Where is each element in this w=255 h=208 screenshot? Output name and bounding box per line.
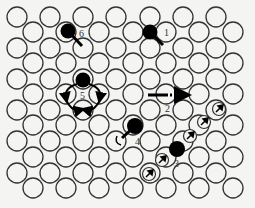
lattice-atom	[223, 84, 243, 104]
lattice-atom	[223, 178, 243, 198]
lattice-atom	[7, 69, 27, 89]
lattice-atom	[89, 22, 109, 42]
lattice-atom	[7, 38, 27, 58]
lattice-atom	[40, 7, 60, 27]
lattice-atom	[189, 178, 209, 198]
lattice-atom	[156, 53, 176, 73]
lattice-atom	[23, 115, 43, 135]
lattice-diagram: 6 1 5 2 4	[0, 0, 255, 208]
label-2: 2	[165, 103, 170, 114]
lattice-atom	[189, 84, 209, 104]
lattice-atom	[40, 38, 60, 58]
lattice-atom	[156, 115, 176, 135]
host-lattice	[7, 7, 243, 198]
lattice-atom	[140, 131, 160, 151]
interstitial-atom	[61, 24, 76, 39]
lattice-atom	[23, 84, 43, 104]
lattice-atom	[140, 100, 160, 120]
lattice-atom	[106, 100, 126, 120]
lattice-atom	[23, 147, 43, 167]
lattice-atom	[189, 22, 209, 42]
interstitial-atom	[127, 118, 143, 134]
lattice-atom	[206, 69, 226, 89]
lattice-atom	[89, 178, 109, 198]
lattice-atom	[89, 53, 109, 73]
lattice-atom	[123, 147, 143, 167]
lattice-svg: 6 1 5 2 4	[0, 0, 255, 208]
interstitial-atom	[143, 25, 158, 40]
lattice-atom	[206, 7, 226, 27]
lattice-atom	[7, 7, 27, 27]
lattice-atom	[73, 131, 93, 151]
lattice-atom	[189, 53, 209, 73]
lattice-atom	[56, 53, 76, 73]
lattice-atom	[123, 178, 143, 198]
lattice-atom	[140, 69, 160, 89]
lattice-atom	[106, 69, 126, 89]
lattice-atom	[106, 163, 126, 183]
lattice-atom	[40, 131, 60, 151]
lattice-atom	[223, 53, 243, 73]
lattice-atom	[206, 131, 226, 151]
lattice-atom	[206, 38, 226, 58]
lattice-atom	[7, 163, 27, 183]
lattice-atom	[23, 178, 43, 198]
lattice-atom	[89, 115, 109, 135]
lattice-atom	[89, 147, 109, 167]
label-5: 5	[80, 90, 85, 101]
mechanism-3-chain-arrows	[143, 103, 226, 181]
lattice-atom	[23, 22, 43, 42]
lattice-atom	[7, 131, 27, 151]
lattice-atom	[223, 115, 243, 135]
label-3: 3	[174, 158, 179, 169]
lattice-atom	[173, 38, 193, 58]
lattice-atom	[23, 53, 43, 73]
lattice-atom	[206, 163, 226, 183]
mechanism-5: 5	[66, 73, 101, 111]
lattice-atom	[189, 147, 209, 167]
lattice-atom	[123, 53, 143, 73]
lattice-atom	[7, 100, 27, 120]
lattice-atom	[173, 69, 193, 89]
lattice-atom	[56, 115, 76, 135]
swap-arrow-icon	[116, 136, 121, 145]
lattice-atom	[123, 84, 143, 104]
lattice-atom	[73, 163, 93, 183]
lattice-atom	[106, 7, 126, 27]
label-6: 6	[79, 28, 84, 39]
lattice-atom	[173, 7, 193, 27]
lattice-atom	[40, 100, 60, 120]
interstitial-atom	[169, 141, 185, 157]
lattice-atom	[56, 147, 76, 167]
label-4: 4	[135, 136, 140, 147]
lattice-atom	[73, 7, 93, 27]
lattice-atom	[123, 22, 143, 42]
lattice-atom	[40, 69, 60, 89]
lattice-atom	[106, 38, 126, 58]
lattice-atom	[140, 7, 160, 27]
lattice-atom	[40, 163, 60, 183]
lattice-atom	[156, 178, 176, 198]
mechanism-2: 2	[148, 95, 183, 114]
lattice-atom	[223, 22, 243, 42]
lattice-atom	[173, 100, 193, 120]
lattice-atom	[56, 178, 76, 198]
label-1: 1	[164, 27, 169, 38]
ring-atom	[76, 73, 91, 88]
lattice-atom	[223, 147, 243, 167]
